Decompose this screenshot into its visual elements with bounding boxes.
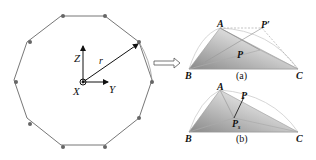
y-label: Y: [109, 83, 117, 95]
x-label: X: [72, 85, 81, 97]
panel-a-label-B: B: [184, 70, 192, 81]
z-label: Z: [74, 52, 81, 64]
axes: [80, 44, 138, 85]
diagram-canvas: Z Y X r A B C P P′ (a) A B C P Ps (b): [0, 0, 316, 160]
panel-a-caption: (a): [236, 70, 247, 82]
panel-b-label-A: A: [216, 81, 224, 92]
hollow-right-arrow-icon: [154, 58, 180, 68]
panel-b-caption: (b): [236, 133, 248, 145]
panel-b-label-P: P: [241, 90, 248, 101]
radius-label: r: [99, 55, 103, 66]
panel-a-label-P: P: [237, 49, 244, 60]
panel-b-label-C: C: [296, 133, 303, 144]
radius-line: [83, 44, 138, 82]
panel-a-label-P-prime: P′: [261, 19, 270, 30]
panel-a-label-C: C: [296, 70, 303, 81]
panel-b-label-B: B: [184, 133, 192, 144]
panel-a-label-A: A: [216, 18, 224, 29]
panel-a-triangle: [189, 28, 298, 69]
